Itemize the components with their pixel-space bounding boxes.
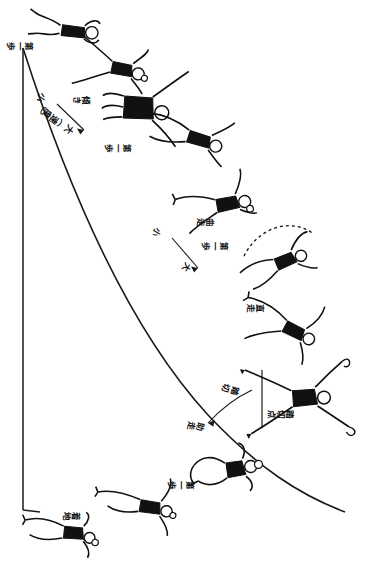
label-takeoff-point: 踏切点 bbox=[267, 408, 294, 417]
athlete-figure bbox=[240, 359, 355, 443]
label-approach-out: 助走 bbox=[186, 419, 205, 431]
athlete-figure bbox=[89, 466, 182, 537]
label-first-step-top: 第一歩 bbox=[6, 40, 33, 49]
label-curve-run: 第一歩 bbox=[201, 240, 228, 249]
athlete-figure bbox=[27, 9, 102, 44]
athlete-figure bbox=[183, 440, 266, 499]
baseline-bottom bbox=[23, 510, 40, 512]
label-straight-run: 直走 bbox=[246, 302, 264, 311]
label-first-step-lower: 第一歩 bbox=[167, 479, 194, 488]
label-lean-top: 傾き bbox=[72, 94, 90, 103]
label-takeoff-upper: 曲走 bbox=[196, 216, 214, 225]
diagram-canvas: 第一歩 傾き 小 大（速度） 第一歩 小 大 曲走 第一歩 直走 踏切 助走 踏… bbox=[0, 0, 366, 568]
label-lean-mid: 第一歩 bbox=[104, 142, 131, 151]
athlete-figure bbox=[229, 216, 325, 295]
label-start-bottom: 着地 bbox=[62, 510, 80, 519]
athlete-figure bbox=[70, 33, 154, 98]
athlete-figure bbox=[228, 271, 331, 368]
athlete-figure bbox=[19, 506, 101, 559]
